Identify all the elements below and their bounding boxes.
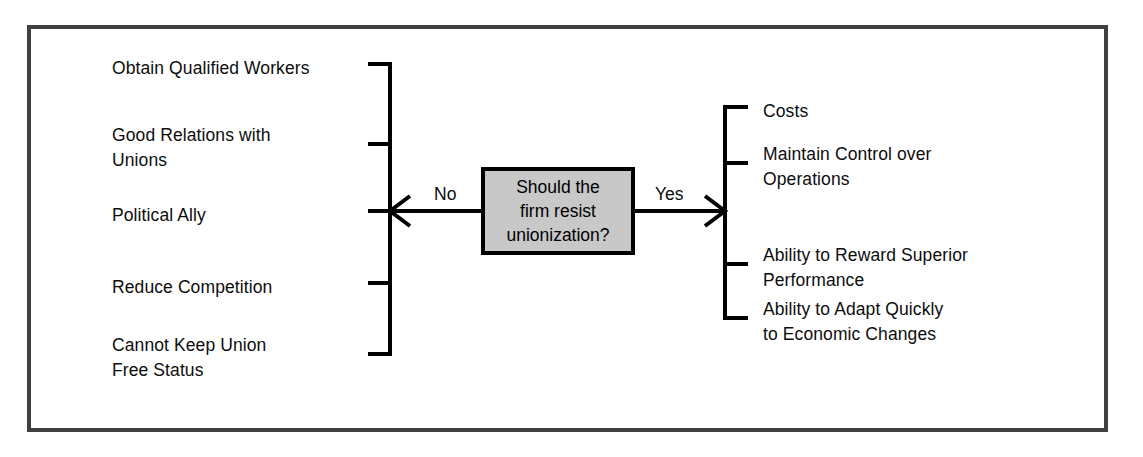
no-item-label-5: Cannot Keep Union Free Status: [112, 333, 372, 383]
no-item-label-4: Reduce Competition: [112, 275, 372, 300]
yes-item-label-4: Ability to Adapt Quickly to Economic Cha…: [763, 297, 1093, 347]
no-item-label-2: Good Relations with Unions: [112, 123, 372, 173]
yes-item-label-2: Maintain Control over Operations: [763, 142, 1083, 192]
decision-box: Should the firm resist unionization?: [481, 167, 635, 255]
no-item-label-3: Political Ally: [112, 203, 372, 228]
diagram-page: Obtain Qualified Workers Good Relations …: [0, 0, 1143, 457]
decision-box-text: Should the firm resist unionization?: [506, 175, 609, 247]
branch-label-yes: Yes: [655, 184, 684, 205]
branch-label-no: No: [434, 184, 456, 205]
yes-item-label-1: Costs: [763, 99, 1083, 124]
no-item-label-1: Obtain Qualified Workers: [112, 56, 372, 81]
yes-item-label-3: Ability to Reward Superior Performance: [763, 243, 1093, 293]
